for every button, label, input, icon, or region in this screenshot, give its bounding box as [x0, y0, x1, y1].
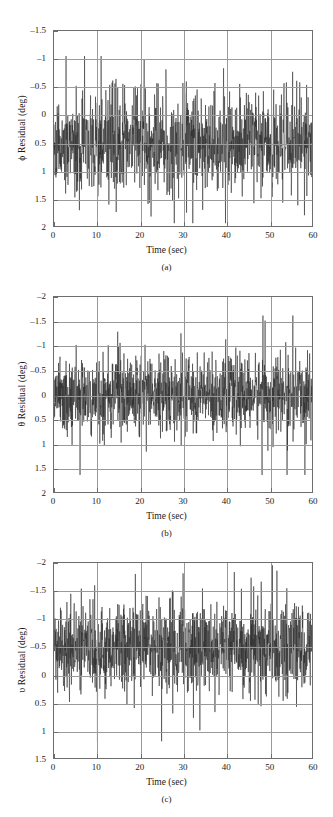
y-gridline — [54, 396, 312, 397]
y-tickmark — [54, 31, 58, 32]
plot-area-c — [53, 562, 313, 759]
y-gridline — [54, 371, 312, 372]
x-gridline — [97, 563, 98, 758]
x-tick-label: 50 — [265, 762, 274, 772]
y-tick-label: 1.5 — [0, 194, 50, 204]
plot-area-a — [53, 30, 313, 227]
y-tick-label: 0 — [0, 109, 50, 119]
y-gridline — [54, 115, 312, 116]
x-axis-title-a: Time (sec) — [0, 245, 333, 255]
x-tickmark — [54, 488, 55, 492]
x-tick-label: 10 — [92, 496, 101, 506]
y-gridline — [54, 322, 312, 323]
y-tick-label: 1 — [0, 726, 50, 736]
x-axis-title-c: Time (sec) — [0, 777, 333, 787]
y-tickmark — [54, 563, 58, 564]
x-tick-label: 20 — [135, 496, 144, 506]
y-tick-label: –0.5 — [0, 365, 50, 375]
x-gridline — [227, 31, 228, 226]
y-tickmark — [54, 346, 58, 347]
y-tick-label: 2 — [0, 488, 50, 498]
x-tickmark — [227, 754, 228, 758]
x-gridline — [271, 563, 272, 758]
y-tick-label: –1 — [0, 340, 50, 350]
y-tick-label: –1.5 — [0, 585, 50, 595]
y-tickmark — [54, 704, 58, 705]
figure-page: ϕ Residual (deg) Time (sec) (a) 21.510.5… — [0, 0, 333, 817]
y-tickmark — [54, 297, 58, 298]
y-tickmark — [54, 144, 58, 145]
x-tickmark — [97, 754, 98, 758]
panel-caption-c: (c) — [0, 794, 333, 804]
x-gridline — [97, 31, 98, 226]
x-tick-label: 40 — [222, 230, 231, 240]
y-tickmark — [54, 591, 58, 592]
x-tick-label: 0 — [51, 230, 56, 240]
x-tickmark — [227, 488, 228, 492]
y-tickmark — [54, 371, 58, 372]
x-tickmark — [97, 488, 98, 492]
y-axis-title-c: υ Residual (deg) — [17, 627, 27, 692]
y-tick-label: 1 — [0, 439, 50, 449]
x-gridline — [97, 297, 98, 492]
y-gridline — [54, 704, 312, 705]
x-tick-label: 30 — [179, 496, 188, 506]
residual-trace-b — [54, 297, 312, 492]
chart-panel-b: θ Residual (deg) Time (sec) (b) 21.510.5… — [0, 280, 333, 550]
y-gridline — [54, 144, 312, 145]
y-gridline — [54, 591, 312, 592]
x-tick-label: 10 — [92, 230, 101, 240]
y-tick-label: 0.5 — [0, 138, 50, 148]
panel-caption-b: (b) — [0, 528, 333, 538]
y-gridline — [54, 732, 312, 733]
y-tick-label: –0.5 — [0, 81, 50, 91]
x-gridline — [141, 297, 142, 492]
y-tick-label: 1.5 — [0, 754, 50, 764]
x-gridline — [271, 297, 272, 492]
x-tick-label: 60 — [309, 762, 318, 772]
y-tickmark — [54, 619, 58, 620]
y-gridline — [54, 200, 312, 201]
y-tickmark — [54, 87, 58, 88]
residual-trace-c — [54, 563, 312, 758]
x-tickmark — [184, 488, 185, 492]
x-tickmark — [271, 488, 272, 492]
x-gridline — [141, 31, 142, 226]
x-gridline — [227, 297, 228, 492]
x-tick-label: 20 — [135, 230, 144, 240]
y-gridline — [54, 469, 312, 470]
x-tickmark — [141, 754, 142, 758]
x-tick-label: 50 — [265, 496, 274, 506]
y-tickmark — [54, 732, 58, 733]
x-gridline — [184, 31, 185, 226]
x-gridline — [184, 297, 185, 492]
x-tickmark — [227, 222, 228, 226]
y-tick-label: 0.5 — [0, 414, 50, 424]
y-tick-label: –1 — [0, 613, 50, 623]
y-tick-label: 2 — [0, 222, 50, 232]
y-gridline — [54, 676, 312, 677]
x-tick-label: 60 — [309, 230, 318, 240]
y-gridline — [54, 346, 312, 347]
y-tickmark — [54, 647, 58, 648]
plot-wrap-c: υ Residual (deg) Time (sec) (c) 1.510.50… — [0, 550, 333, 817]
x-tickmark — [141, 222, 142, 226]
x-tick-label: 50 — [265, 230, 274, 240]
x-tickmark — [97, 222, 98, 226]
x-tickmark — [271, 222, 272, 226]
y-tickmark — [54, 115, 58, 116]
y-tick-label: –1.5 — [0, 316, 50, 326]
y-tickmark — [54, 676, 58, 677]
panel-caption-a: (a) — [0, 262, 333, 272]
y-tick-label: –2 — [0, 291, 50, 301]
plot-wrap-b: θ Residual (deg) Time (sec) (b) 21.510.5… — [0, 280, 333, 550]
residual-trace-a — [54, 31, 312, 226]
x-tick-label: 60 — [309, 496, 318, 506]
plot-area-b — [53, 296, 313, 493]
chart-panel-a: ϕ Residual (deg) Time (sec) (a) 21.510.5… — [0, 0, 333, 280]
y-tickmark — [54, 445, 58, 446]
y-tick-label: –1.5 — [0, 25, 50, 35]
y-tick-label: –2 — [0, 557, 50, 567]
x-tickmark — [54, 754, 55, 758]
y-tick-label: –0.5 — [0, 641, 50, 651]
